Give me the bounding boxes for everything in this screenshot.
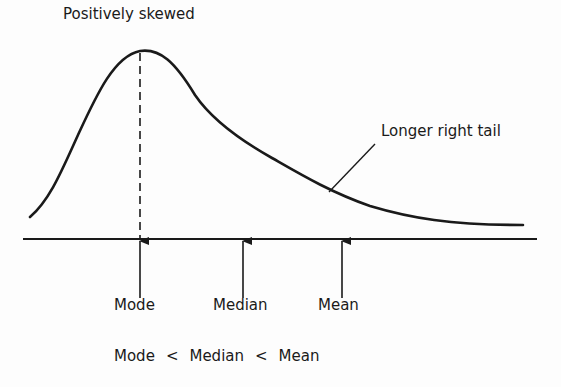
diagram-title: Positively skewed: [63, 7, 195, 22]
skewed-distribution-diagram: Positively skewed Longer right tail Mode…: [0, 0, 561, 387]
less-than-symbol: <: [166, 349, 179, 364]
less-than-symbol: <: [255, 349, 268, 364]
relation-mode: Mode: [114, 349, 155, 364]
mode-label: Mode: [114, 298, 155, 313]
relation-median: Median: [189, 349, 244, 364]
relation-mean: Mean: [279, 349, 320, 364]
mean-label: Mean: [318, 298, 359, 313]
tail-leader-line: [329, 144, 375, 192]
diagram-canvas: [0, 0, 561, 387]
tail-annotation: Longer right tail: [381, 124, 501, 139]
median-label: Median: [213, 298, 268, 313]
relation-inequality: Mode<Median<Mean: [114, 349, 319, 364]
